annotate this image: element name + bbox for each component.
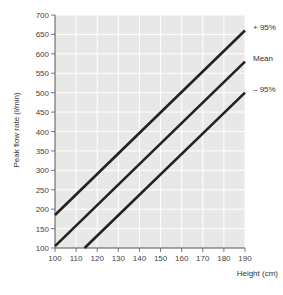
series-label: – 95%	[253, 85, 276, 94]
x-tick-label: 130	[112, 254, 126, 263]
y-tick-label: 200	[36, 205, 50, 214]
y-tick-label: 250	[36, 186, 50, 195]
y-axis-ticks: 100150200250300350400450500550600650700	[36, 11, 55, 253]
series-label: + 95%	[253, 23, 276, 32]
series-label: Mean	[253, 54, 273, 63]
y-tick-label: 100	[36, 244, 50, 253]
y-tick-label: 500	[36, 89, 50, 98]
x-tick-label: 120	[91, 254, 105, 263]
x-tick-label: 170	[196, 254, 210, 263]
y-tick-label: 450	[36, 108, 50, 117]
y-tick-label: 300	[36, 166, 50, 175]
x-tick-label: 160	[175, 254, 189, 263]
x-tick-label: 140	[133, 254, 147, 263]
x-axis-ticks: 100110120130140150160170180190	[48, 248, 252, 263]
y-tick-label: 700	[36, 11, 50, 20]
y-tick-label: 550	[36, 69, 50, 78]
series-labels: + 95%Mean– 95%	[253, 23, 276, 94]
x-tick-label: 110	[70, 254, 83, 263]
x-axis-label: Height (cm)	[237, 269, 279, 278]
x-tick-label: 180	[217, 254, 231, 263]
y-tick-label: 400	[36, 128, 50, 137]
x-tick-label: 190	[238, 254, 252, 263]
y-axis-label: Peak flow rate (l/min)	[12, 92, 21, 167]
y-tick-label: 350	[36, 147, 50, 156]
y-tick-label: 600	[36, 50, 50, 59]
y-tick-label: 650	[36, 30, 50, 39]
peak-flow-chart: 100150200250300350400450500550600650700 …	[0, 0, 283, 295]
y-tick-label: 150	[36, 225, 50, 234]
x-tick-label: 150	[154, 254, 168, 263]
x-tick-label: 100	[48, 254, 62, 263]
